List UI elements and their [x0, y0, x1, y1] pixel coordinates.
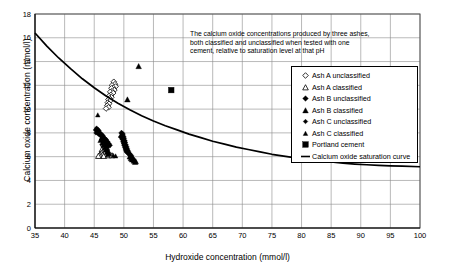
data-point — [95, 113, 100, 117]
y-tick-label: 12 — [15, 81, 31, 90]
x-tick-label: 70 — [232, 231, 252, 240]
legend-item-2[interactable]: Ash B unclassified — [292, 93, 417, 105]
x-tick-label: 90 — [351, 231, 371, 240]
y-tick-label: 10 — [15, 105, 31, 114]
x-tick-label: 95 — [380, 231, 400, 240]
y-tick-label: 8 — [15, 128, 31, 137]
x-tick-label: 55 — [143, 231, 163, 240]
legend-label: Ash A unclassified — [312, 71, 370, 80]
filled-diamond-small-icon — [299, 116, 312, 127]
legend-item-6[interactable]: Portland cement — [292, 139, 417, 151]
y-tick-label: 6 — [15, 152, 31, 161]
legend-label: Ash C classified — [312, 129, 363, 138]
open-diamond-icon — [299, 70, 312, 81]
y-tick-label: 18 — [15, 10, 31, 19]
y-tick-label: 4 — [15, 176, 31, 185]
x-tick-label: 60 — [173, 231, 193, 240]
filled-diamond-icon — [299, 93, 312, 104]
chart-legend: Ash A unclassifiedAsh A classifiedAsh B … — [291, 66, 418, 163]
data-point — [136, 64, 142, 69]
x-tick-label: 85 — [321, 231, 341, 240]
legend-label: Ash B unclassified — [312, 94, 371, 103]
filled-triangle-icon — [299, 105, 312, 116]
series-ash-b-unclassified — [118, 130, 134, 158]
line-icon — [299, 151, 312, 162]
y-tick-label: 14 — [15, 57, 31, 66]
data-point — [168, 87, 174, 93]
chart-annotation: The calcium oxide concentrations produce… — [190, 30, 412, 56]
legend-item-1[interactable]: Ash A classified — [292, 82, 417, 94]
x-tick-label: 45 — [84, 231, 104, 240]
x-axis-title: Hydroxide concentration (mmol/l) — [35, 252, 420, 262]
x-tick-label: 75 — [262, 231, 282, 240]
x-tick-label: 100 — [410, 231, 430, 240]
legend-item-7[interactable]: Calcium oxide saturation curve — [292, 151, 417, 163]
legend-label: Calcium oxide saturation curve — [312, 152, 410, 161]
legend-label: Portland cement — [312, 140, 364, 149]
chart-figure: { "chart_data": { "type": "scatter", "ti… — [0, 0, 452, 270]
legend-item-0[interactable]: Ash A unclassified — [292, 70, 417, 82]
data-point — [125, 97, 131, 102]
filled-triangle-small-icon — [299, 128, 312, 139]
legend-item-3[interactable]: Ash B classified — [292, 105, 417, 117]
x-tick-label: 50 — [114, 231, 134, 240]
legend-label: Ash B classified — [312, 106, 363, 115]
x-tick-label: 80 — [292, 231, 312, 240]
y-tick-label: 16 — [15, 33, 31, 42]
annotation-line-3: cement, relative to saturation level at … — [190, 47, 412, 56]
legend-label: Ash C unclassified — [312, 117, 371, 126]
series-portland-cement — [168, 87, 174, 93]
legend-label: Ash A classified — [312, 83, 362, 92]
x-tick-label: 65 — [203, 231, 223, 240]
annotation-line-1: The calcium oxide concentrations produce… — [190, 30, 412, 39]
legend-item-5[interactable]: Ash C classified — [292, 128, 417, 140]
y-tick-label: 0 — [15, 224, 31, 233]
legend-item-4[interactable]: Ash C unclassified — [292, 116, 417, 128]
open-triangle-icon — [299, 82, 312, 93]
filled-square-icon — [299, 139, 312, 150]
y-tick-label: 2 — [15, 200, 31, 209]
x-tick-label: 40 — [55, 231, 75, 240]
annotation-line-2: both classified and unclassified when te… — [190, 39, 412, 48]
